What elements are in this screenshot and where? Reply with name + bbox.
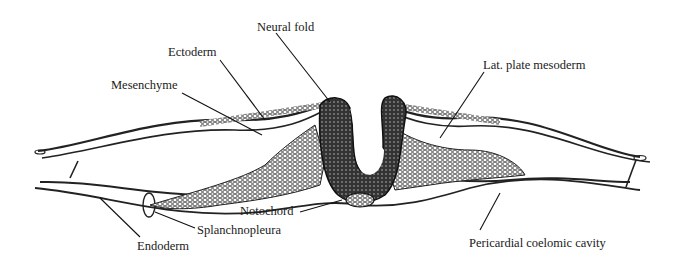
label-lat-plate-mesoderm: Lat. plate mesoderm [483, 59, 585, 72]
label-notochord: Notochord [240, 205, 293, 218]
label-endoderm: Endoderm [137, 240, 189, 253]
label-splanchnopleura: Splanchnopleura [197, 224, 281, 237]
label-ectoderm: Ectoderm [168, 46, 217, 59]
notochord-structure [346, 193, 374, 207]
label-neural-fold: Neural fold [257, 21, 314, 34]
label-pericardial-coelomic-cavity: Pericardial coelomic cavity [469, 237, 606, 250]
embryo-drawing [0, 0, 686, 272]
label-mesenchyme: Mesenchyme [111, 79, 178, 92]
embryo-cross-section-figure: Neural fold Ectoderm Mesenchyme Lat. pla… [0, 0, 686, 272]
neural-folds [320, 96, 406, 207]
